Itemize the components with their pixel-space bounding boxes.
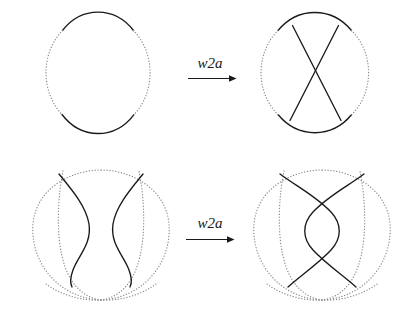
solid-s-curve-left — [59, 174, 89, 287]
arrow-bottom-head — [227, 236, 235, 243]
arrow-bottom: w2a — [186, 215, 235, 243]
diagram-horseshoe-pair-uncrossed — [33, 170, 169, 300]
solid-arc-top — [278, 12, 352, 30]
arrow-top: w2a — [188, 55, 237, 82]
solid-s-curve-right — [113, 174, 143, 287]
chord-ascending — [290, 26, 339, 121]
dotted-arc-right — [352, 31, 369, 115]
solid-crossing-strand-b — [305, 174, 364, 287]
dotted-arc-right — [134, 31, 151, 115]
solid-arc-bottom — [62, 115, 134, 134]
arrow-top-head — [229, 75, 237, 82]
diagram-horseshoe-pair-double-crossed — [254, 170, 390, 300]
dotted-arc-left — [46, 31, 63, 115]
dotted-outer-oval — [254, 170, 390, 300]
diagram-circle-unknotted — [46, 12, 150, 133]
dotted-inner-horseshoe — [279, 171, 364, 300]
solid-arc-bottom — [278, 115, 351, 133]
operation-label-top: w2a — [197, 55, 222, 71]
chord-descending — [293, 26, 342, 121]
operation-label-bottom: w2a — [197, 215, 222, 231]
w2a-move-diagram: w2a w2a — [0, 0, 404, 318]
dotted-outer-oval — [33, 170, 169, 300]
solid-crossing-strand-a — [280, 174, 339, 287]
dotted-arc-left — [261, 31, 278, 115]
solid-arc-top — [63, 12, 134, 30]
diagram-circle-with-x-crossing — [261, 12, 369, 132]
